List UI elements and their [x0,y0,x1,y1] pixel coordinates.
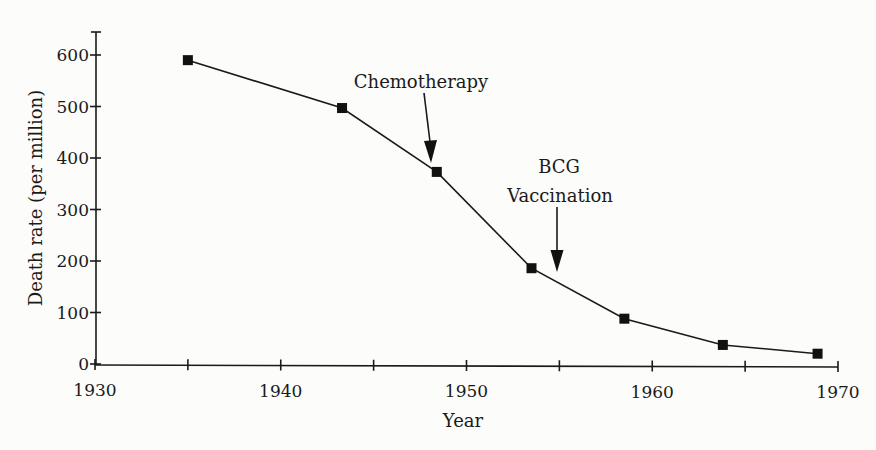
y-tick-label: 500 [57,97,89,117]
x-axis: 19301940195019601970 [73,359,859,402]
line-chart: 0100200300400500600 19301940195019601970… [0,0,876,450]
y-tick-label: 0 [78,354,89,374]
series-line [188,60,818,354]
data-point-marker [527,263,537,273]
data-point-marker [183,55,193,65]
annotations: ChemotherapyBCGVaccination [354,71,613,272]
y-axis: 0100200300400500600 [57,32,101,374]
y-tick-label: 400 [57,148,89,168]
data-point-marker [619,314,629,324]
y-tick-label: 100 [57,303,89,323]
data-point-marker [813,349,823,359]
y-axis-title: Death rate (per million) [25,90,46,306]
annotation-vaccination-label: Vaccination [506,185,613,206]
annotation-chemotherapy-label: Chemotherapy [354,71,489,92]
chemotherapy-arrow-shaft [424,93,430,145]
chemotherapy-arrow-head [424,140,437,163]
y-tick-label: 200 [57,251,89,271]
bcg-arrow-head [551,250,564,272]
x-tick-label: 1950 [445,381,488,401]
x-tick-label: 1930 [73,380,116,400]
data-point-marker [337,103,347,113]
y-tick-label: 600 [57,45,89,65]
y-tick-label: 300 [57,200,89,220]
annotation-bcg-label: BCG [538,156,580,177]
data-point-marker [432,167,442,177]
x-tick-label: 1940 [259,381,302,401]
data-point-marker [718,340,728,350]
x-tick-label: 1970 [816,382,859,402]
data-series [183,55,823,359]
x-axis-title: Year [442,410,484,431]
x-tick-label: 1960 [631,382,674,402]
